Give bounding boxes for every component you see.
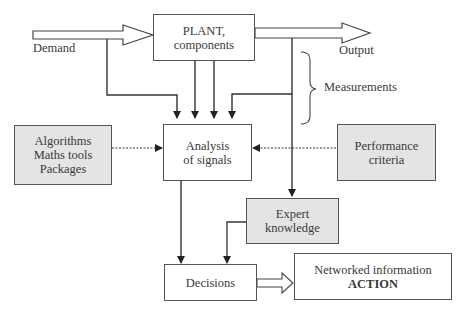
analysis-line1: Analysis	[186, 139, 230, 153]
algorithms-line1: Algorithms	[35, 134, 92, 148]
plant-line2: components	[174, 38, 234, 52]
performance-line2: criteria	[369, 153, 404, 167]
algorithms-line2: Maths tools	[34, 148, 93, 162]
action-line2: ACTION	[348, 277, 398, 291]
performance-line1: Performance	[355, 139, 419, 153]
algorithms-line3: Packages	[40, 162, 87, 176]
decisions-box: Decisions	[164, 264, 257, 301]
measurements-brace	[301, 52, 316, 124]
plant-line1: PLANT,	[183, 24, 225, 38]
expert-box: Expert knowledge	[246, 198, 339, 244]
algorithms-box: Algorithms Maths tools Packages	[14, 125, 112, 185]
analysis-line2: of signals	[183, 153, 231, 167]
action-line1: Networked information	[314, 263, 432, 277]
analysis-box: Analysis of signals	[163, 124, 252, 181]
decisions-label: Decisions	[186, 276, 235, 290]
action-box: Networked information ACTION	[294, 253, 452, 300]
expert-line1: Expert	[276, 207, 309, 221]
plant-box: PLANT, components	[153, 14, 255, 61]
output-label: Output	[339, 43, 374, 58]
demand-label: Demand	[33, 41, 75, 56]
measurements-label: Measurements	[324, 80, 397, 95]
output-arrow	[255, 23, 370, 43]
performance-box: Performance criteria	[337, 124, 436, 181]
decisions-to-action-arrow	[257, 273, 293, 293]
expert-line2: knowledge	[265, 221, 320, 235]
